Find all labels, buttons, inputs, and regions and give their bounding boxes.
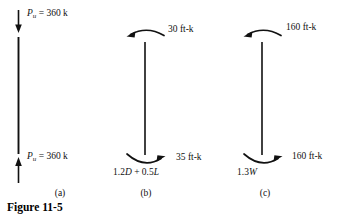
- load-combination-label-c: 1.3W: [237, 168, 257, 178]
- panel-c-graphics: [244, 30, 283, 163]
- load-top-value: = 360 k: [39, 8, 68, 18]
- panel-b-graphics: [127, 30, 166, 163]
- axial-load-top-label: Pu = 360 k: [27, 9, 68, 20]
- moment-arrow-bottom-b-icon: [127, 154, 166, 163]
- axial-load-bottom-label: Pu = 360 k: [27, 152, 68, 163]
- figure-title: Figure 11-5: [7, 201, 63, 213]
- moment-bottom-label-c: 160 ft-k: [292, 152, 322, 162]
- moment-arrow-top-c-icon: [244, 30, 282, 37]
- moment-bottom-label-b: 35 ft-k: [176, 153, 202, 163]
- moment-arrow-top-b-icon: [127, 30, 165, 37]
- combo-prefix: 1.2: [113, 167, 125, 177]
- combo-wind-load-symbol: W: [249, 167, 257, 177]
- combo-dead-load-symbol: D: [125, 167, 132, 177]
- moment-arrow-bottom-c-icon: [244, 154, 283, 163]
- combo-prefix: 1.3: [237, 167, 249, 177]
- axial-load-arrow-bottom-icon: [15, 157, 22, 183]
- figure-11-5: Pu = 360 k Pu = 360 k 30 ft-k 35 ft-k 1.…: [0, 0, 343, 218]
- panel-a-graphics: [15, 10, 22, 183]
- load-subscript-u: u: [33, 155, 37, 163]
- combo-mid: + 0.5: [132, 167, 154, 177]
- moment-top-label-b: 30 ft-k: [168, 25, 194, 35]
- axial-load-arrow-top-icon: [15, 10, 22, 33]
- load-bottom-value: = 360 k: [39, 151, 68, 161]
- load-subscript-u: u: [33, 12, 37, 20]
- panel-caption-b: (b): [96, 188, 196, 198]
- panel-caption-c: (c): [215, 188, 315, 198]
- combo-live-load-symbol: L: [154, 167, 159, 177]
- moment-top-label-c: 160 ft-k: [286, 23, 316, 33]
- load-combination-label-b: 1.2D + 0.5L: [113, 168, 159, 178]
